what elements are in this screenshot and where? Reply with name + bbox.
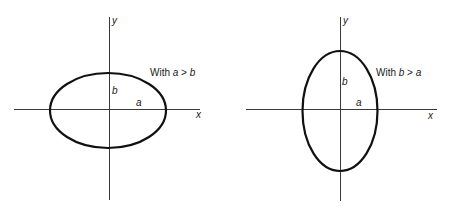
right-caption-var2: a [416, 67, 422, 78]
right-b-label: b [342, 76, 348, 87]
right-caption-op: > [404, 67, 415, 78]
ellipse-diagrams: y x b a With a > b y x b a With b > a [0, 0, 449, 209]
right-x-axis-label: x [427, 110, 434, 121]
left-caption-prefix: With [150, 67, 173, 78]
left-caption-op: > [178, 67, 189, 78]
left-y-axis-label: y [111, 15, 118, 26]
left-ellipse [50, 73, 166, 148]
right-a-label: a [356, 97, 362, 108]
left-caption-var2: b [190, 67, 196, 78]
right-caption: With b > a [376, 67, 422, 78]
left-a-label: a [136, 97, 142, 108]
right-figure: y x b a With b > a [246, 15, 437, 201]
left-x-axis-label: x [195, 109, 202, 120]
left-caption: With a > b [150, 67, 196, 78]
left-figure: y x b a With a > b [14, 15, 202, 200]
left-b-label: b [112, 85, 118, 96]
right-y-axis-label: y [342, 15, 349, 26]
right-caption-prefix: With [376, 67, 399, 78]
